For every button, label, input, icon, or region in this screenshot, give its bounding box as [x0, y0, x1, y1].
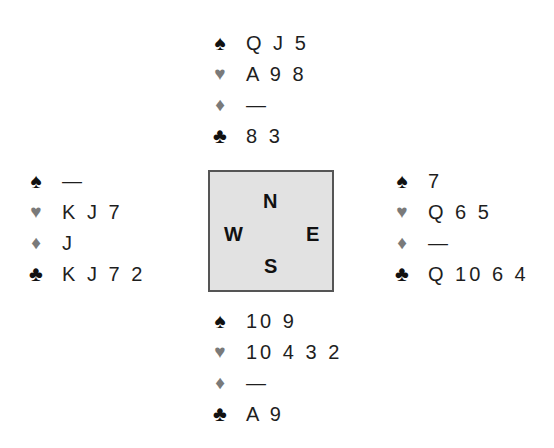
- heart-icon: ♥: [210, 61, 230, 87]
- heart-icon: ♥: [26, 199, 46, 225]
- club-icon: ♣: [210, 123, 230, 149]
- spade-icon: ♠: [26, 168, 46, 194]
- compass-north: N: [263, 190, 277, 213]
- west-hearts-cards: K J 7: [62, 199, 123, 225]
- compass-west: W: [224, 223, 243, 246]
- compass-south: S: [264, 255, 277, 278]
- diamond-icon: ♦: [392, 230, 412, 256]
- north-spades-cards: Q J 5: [246, 30, 309, 56]
- diamond-icon: ♦: [210, 92, 230, 118]
- club-icon: ♣: [392, 261, 412, 287]
- spade-icon: ♠: [210, 308, 230, 334]
- diamond-icon: ♦: [26, 230, 46, 256]
- west-spades-cards: —: [62, 168, 85, 194]
- club-icon: ♣: [26, 261, 46, 287]
- spade-icon: ♠: [210, 30, 230, 56]
- compass-east: E: [306, 223, 319, 246]
- east-spades-cards: 7: [428, 168, 442, 194]
- north-hearts-cards: A 9 8: [246, 61, 307, 87]
- compass-box: N W E S: [208, 170, 334, 292]
- south-clubs-cards: A 9: [246, 401, 284, 427]
- south-spades-cards: 10 9: [246, 308, 297, 334]
- west-clubs-cards: K J 7 2: [62, 261, 145, 287]
- south-hearts-cards: 10 4 3 2: [246, 339, 342, 365]
- east-clubs-cards: Q 10 6 4: [428, 261, 529, 287]
- west-diamonds-cards: J: [62, 230, 75, 256]
- north-diamonds-cards: —: [246, 92, 269, 118]
- club-icon: ♣: [210, 401, 230, 427]
- north-clubs-cards: 8 3: [246, 123, 283, 149]
- east-diamonds-cards: —: [428, 230, 451, 256]
- east-hearts-cards: Q 6 5: [428, 199, 492, 225]
- heart-icon: ♥: [392, 199, 412, 225]
- heart-icon: ♥: [210, 339, 230, 365]
- spade-icon: ♠: [392, 168, 412, 194]
- diamond-icon: ♦: [210, 370, 230, 396]
- south-diamonds-cards: —: [246, 370, 269, 396]
